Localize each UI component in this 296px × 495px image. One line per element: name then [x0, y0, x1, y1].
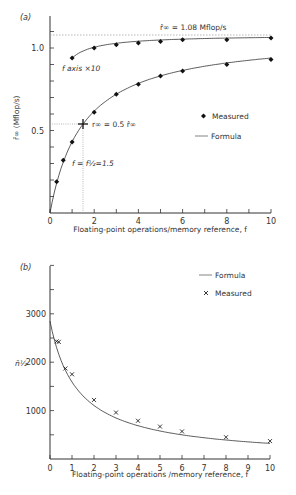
- legend-measured-b: Measured: [215, 289, 252, 298]
- x10-note: f axis ×10: [62, 64, 100, 73]
- cross-marker-icon: [204, 291, 208, 295]
- legend-formula: Formula: [211, 132, 241, 141]
- f-half-label: f = f½=1.5: [72, 159, 114, 168]
- x-tick-label: 10: [265, 464, 275, 473]
- legend-b: Formula Measured: [199, 271, 252, 298]
- data-point: [268, 439, 272, 443]
- half-point-label: r∞ = 0.5 r̂∞: [92, 120, 136, 129]
- y-tick-label-1000: 1000: [26, 407, 46, 416]
- legend-formula-b: Formula: [215, 271, 245, 280]
- y-axis-label-a: r̄∞ (Mflop/s): [12, 95, 21, 140]
- legend-a: Measured Formula: [195, 112, 249, 141]
- x-axis-label-a: Floating-point operations/memory referen…: [73, 225, 247, 234]
- y-tick-label-0.5: 0.5: [31, 127, 44, 136]
- x-ticks-a: 0246810: [47, 209, 276, 226]
- legend-measured: Measured: [212, 112, 249, 121]
- data-point: [92, 110, 97, 115]
- data-point: [54, 179, 59, 184]
- diamond-marker-icon: [201, 114, 206, 119]
- data-point: [180, 69, 185, 74]
- data-point: [114, 411, 118, 415]
- y-axis-label-b: n̄½: [15, 359, 28, 368]
- data-point: [92, 46, 97, 51]
- y-tick-label-1.0: 1.0: [31, 44, 44, 53]
- y-ticks-b: [50, 265, 54, 434]
- data-point: [92, 398, 96, 402]
- half-point-cross-icon: [78, 119, 88, 129]
- data-point: [180, 37, 185, 42]
- data-point: [70, 140, 75, 145]
- data-point: [269, 36, 274, 41]
- asymptote-label: r̂∞ = 1.08 Mflop/s: [160, 23, 227, 32]
- formula-curve-b: [50, 321, 270, 443]
- x-axis-label-b: Floating-point operations /memory refere…: [72, 470, 248, 479]
- panel-label-a: (a): [20, 13, 31, 22]
- data-point: [158, 74, 163, 79]
- y-ticks-a: [50, 32, 54, 197]
- data-point: [180, 429, 184, 433]
- data-point: [114, 92, 119, 97]
- data-point: [136, 419, 140, 423]
- y-tick-label-2000: 2000: [26, 358, 46, 367]
- panel-label-b: (b): [20, 263, 31, 272]
- measured-points-b: [55, 339, 272, 443]
- chart-a: (a) 0246810 0.5 1.0 r̂∞ = 1.08 Mflop/s r…: [12, 13, 276, 234]
- x-tick-label: 0: [47, 217, 52, 226]
- x-tick-label: 0: [47, 464, 52, 473]
- data-point: [158, 425, 162, 429]
- data-point: [70, 372, 74, 376]
- figure: (a) 0246810 0.5 1.0 r̂∞ = 1.08 Mflop/s r…: [0, 0, 296, 495]
- formula-curve-x10: [72, 37, 271, 58]
- chart-b: (b) 012345678910 3000 2000 1000 n̄½ Form…: [15, 263, 275, 479]
- data-point: [224, 435, 228, 439]
- y-tick-label-3000: 3000: [26, 310, 46, 319]
- x-tick-label: 10: [266, 217, 276, 226]
